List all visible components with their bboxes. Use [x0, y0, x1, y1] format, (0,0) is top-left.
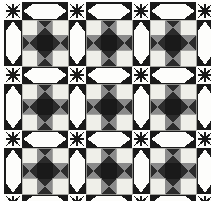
- center-square-block-r2c3: [165, 99, 180, 114]
- corner-square-block-r1c2-22: [117, 51, 132, 66]
- eight-point-star-0: [4, 2, 23, 21]
- corner-square-block-r1c2-00: [86, 20, 101, 35]
- corner-square-block-r1c1-00: [22, 20, 37, 35]
- quilt-pattern-image: [0, 0, 211, 201]
- eight-point-star-10: [132, 130, 151, 149]
- center-square-block-r2c2: [101, 99, 116, 114]
- corner-square-block-r3c2-00: [86, 148, 101, 163]
- center-square-block-r1c2: [101, 35, 116, 50]
- eight-point-star-8: [4, 130, 23, 149]
- corner-square-block-r1c1-20: [22, 51, 37, 66]
- corner-square-block-r2c1-00: [22, 84, 37, 99]
- center-square-block-r3c1: [37, 163, 52, 178]
- corner-square-block-r2c3-00: [150, 84, 165, 99]
- corner-square-block-r1c3-20: [150, 51, 165, 66]
- corner-square-block-r1c1-02: [53, 20, 68, 35]
- corner-square-block-r3c3-00: [150, 148, 165, 163]
- corner-square-block-r2c2-22: [117, 115, 132, 130]
- eight-point-star-1: [68, 2, 87, 21]
- corner-square-block-r3c2-02: [117, 148, 132, 163]
- corner-square-block-r1c2-20: [86, 51, 101, 66]
- corner-square-block-r3c3-20: [150, 179, 165, 194]
- corner-square-block-r3c1-00: [22, 148, 37, 163]
- center-square-block-r2c1: [37, 99, 52, 114]
- center-square-block-r3c2: [101, 163, 116, 178]
- corner-square-block-r2c3-02: [181, 84, 196, 99]
- center-square-block-r3c3: [165, 163, 180, 178]
- corner-square-block-r3c2-22: [117, 179, 132, 194]
- corner-square-block-r1c1-22: [53, 51, 68, 66]
- center-square-block-r1c1: [37, 35, 52, 50]
- corner-square-block-r1c3-00: [150, 20, 165, 35]
- corner-square-block-r2c1-02: [53, 84, 68, 99]
- corner-square-block-r2c1-20: [22, 115, 37, 130]
- center-square-block-r1c3: [165, 35, 180, 50]
- corner-square-block-r1c3-02: [181, 20, 196, 35]
- corner-square-block-r3c3-02: [181, 148, 196, 163]
- eight-point-star-9: [68, 130, 87, 149]
- corner-square-block-r3c1-22: [53, 179, 68, 194]
- corner-square-block-r3c1-02: [53, 148, 68, 163]
- eight-point-star-4: [4, 66, 23, 85]
- corner-square-block-r2c1-22: [53, 115, 68, 130]
- corner-square-block-r3c2-20: [86, 179, 101, 194]
- corner-square-block-r2c3-22: [181, 115, 196, 130]
- corner-square-block-r1c2-02: [117, 20, 132, 35]
- corner-square-block-r2c2-20: [86, 115, 101, 130]
- quilt-artwork: [0, 0, 211, 201]
- corner-square-block-r1c3-22: [181, 51, 196, 66]
- eight-point-star-6: [132, 66, 151, 85]
- eight-point-star-2: [132, 2, 151, 21]
- corner-square-block-r2c2-02: [117, 84, 132, 99]
- corner-square-block-r3c3-22: [181, 179, 196, 194]
- corner-square-block-r3c1-20: [22, 179, 37, 194]
- corner-square-block-r2c2-00: [86, 84, 101, 99]
- corner-square-block-r2c3-20: [150, 115, 165, 130]
- eight-point-star-5: [68, 66, 87, 85]
